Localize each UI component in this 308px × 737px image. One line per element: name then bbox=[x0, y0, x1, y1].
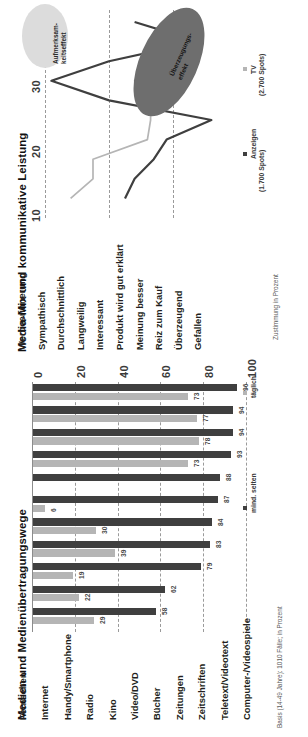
line-category-label: Produkt wird gut erklärt bbox=[114, 244, 125, 350]
bar-tick-40: 40 bbox=[118, 365, 130, 378]
bar-mind-selten bbox=[32, 496, 218, 503]
bar-mind-selten bbox=[32, 451, 231, 458]
bar-value-label: 77 bbox=[202, 415, 209, 422]
bar-baseline bbox=[32, 382, 33, 632]
line-legend-sub-anzeigen: (1.700 Spots) bbox=[258, 150, 265, 192]
bar-value-label: 78 bbox=[204, 437, 211, 444]
bar-value-label: 87 bbox=[223, 496, 230, 503]
bar-category-label: Teletext/Videotext bbox=[219, 641, 230, 720]
line-legend-swatch-tv bbox=[243, 67, 247, 71]
bar-taeglich bbox=[32, 617, 94, 624]
line-legend-label-tv: TV bbox=[250, 65, 257, 74]
bar-value-label: 22 bbox=[84, 594, 91, 601]
bar-value-label: 79 bbox=[206, 563, 213, 570]
bar-category-label: Computer-/Videospiele bbox=[241, 618, 252, 720]
bar-tick-0: 0 bbox=[32, 372, 44, 378]
bar-chart-footnote: Basis (14-49 Jahre): 1010 Fälle; in Proz… bbox=[276, 607, 283, 729]
line-category-label: Sympathisch bbox=[36, 292, 47, 350]
line-axis-note: Zustimmung in Prozent bbox=[272, 274, 279, 340]
bar-chart-panel: Medien und Medienübertragungswege 020406… bbox=[0, 368, 308, 737]
bar-taeglich bbox=[32, 393, 188, 400]
bar-legend-swatch-mind-selten bbox=[243, 506, 247, 510]
bar-mind-selten bbox=[32, 563, 201, 570]
line-legend-label-anzeigen: Anzeigen bbox=[250, 129, 257, 159]
line-category-label: Langweilig bbox=[75, 302, 86, 350]
bar-mind-selten bbox=[32, 586, 165, 593]
bar-taeglich bbox=[32, 527, 96, 534]
bar-value-label: 93 bbox=[236, 451, 243, 458]
line-category-label: Durchschnittlich bbox=[55, 276, 66, 350]
bar-value-label: 30 bbox=[101, 527, 108, 534]
bar-taeglich bbox=[32, 594, 79, 601]
bar-value-label: 84 bbox=[217, 518, 224, 525]
bar-value-label: 19 bbox=[78, 572, 85, 579]
bar-value-label: 62 bbox=[170, 585, 177, 592]
bar-taeglich bbox=[32, 460, 188, 467]
bar-value-label: 96 bbox=[242, 384, 249, 391]
bar-taeglich bbox=[32, 415, 197, 422]
line-legend-sub-tv: (2.700 Spots) bbox=[258, 54, 265, 96]
bar-taeglich bbox=[32, 549, 115, 556]
bar-taeglich bbox=[32, 437, 199, 444]
bar-value-label: 94 bbox=[238, 429, 245, 436]
bar-mind-selten bbox=[32, 474, 220, 481]
bar-value-label: 6 bbox=[50, 508, 57, 512]
bar-value-label: 29 bbox=[99, 616, 106, 623]
bar-tick-80: 80 bbox=[203, 365, 215, 378]
bar-legend-label-taeglich: täglich bbox=[250, 376, 257, 398]
bar-legend-label-mind-selten: mind. selten bbox=[250, 473, 257, 513]
bar-category-label: Fernsehen bbox=[17, 673, 28, 720]
line-legend-swatch-anzeigen bbox=[243, 152, 247, 156]
bar-category-label: Zeitschriften bbox=[196, 664, 207, 720]
bar-category-label: Radio bbox=[84, 694, 95, 720]
bar-value-label: 73 bbox=[193, 392, 200, 399]
line-category-label: Meinung besser bbox=[134, 279, 145, 350]
bar-taeglich bbox=[32, 505, 45, 512]
bar-category-label: Bücher bbox=[151, 688, 162, 720]
bar-category-label: Handy/Smartphone bbox=[62, 634, 73, 720]
bar-mind-selten bbox=[32, 608, 156, 615]
bar-mind-selten bbox=[32, 541, 210, 548]
bar-mind-selten bbox=[32, 429, 233, 436]
bar-mind-selten bbox=[32, 406, 233, 413]
bar-legend-swatch-taeglich bbox=[243, 391, 247, 395]
line-category-label: Interessant bbox=[94, 300, 105, 350]
bar-tick-60: 60 bbox=[160, 365, 172, 378]
bar-category-label: Video/DVD bbox=[129, 672, 140, 720]
bar-value-label: 94 bbox=[238, 406, 245, 413]
bar-value-label: 58 bbox=[161, 608, 168, 615]
bar-category-label: Zeitungen bbox=[174, 675, 185, 720]
annotation-attention-line2: keitseffekt bbox=[60, 32, 67, 64]
bar-value-label: 88 bbox=[225, 473, 232, 480]
bar-mind-selten bbox=[32, 518, 212, 525]
bar-category-label: Internet bbox=[39, 686, 50, 720]
bar-value-label: 83 bbox=[215, 541, 222, 548]
bar-category-label: Kino bbox=[107, 699, 118, 720]
line-chart-panel: Media-Mix und kommunikative Leistung 10 … bbox=[0, 0, 308, 368]
line-category-label: Werbeerinnerung bbox=[16, 273, 27, 350]
annotation-attention-line1: Aufmerksam- bbox=[52, 23, 59, 64]
bar-tick-20: 20 bbox=[75, 365, 87, 378]
bar-value-label: 73 bbox=[193, 460, 200, 467]
bar-value-label: 39 bbox=[120, 549, 127, 556]
bar-taeglich bbox=[32, 572, 73, 579]
bar-mind-selten bbox=[32, 384, 237, 391]
line-category-label: Überzeugend bbox=[173, 291, 184, 350]
line-category-label: Gefallen bbox=[192, 313, 203, 350]
line-category-label: Reiz zum Kauf bbox=[153, 286, 164, 350]
